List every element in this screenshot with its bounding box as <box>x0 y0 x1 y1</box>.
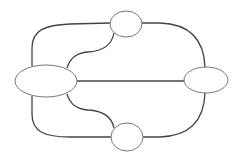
edge-left-top-inner <box>67 33 114 68</box>
edge-top-right <box>142 23 205 67</box>
edge-bottom-right <box>143 93 205 137</box>
node-left <box>15 65 77 97</box>
node-right <box>184 67 228 93</box>
edge-left-bottom-inner <box>67 94 114 128</box>
node-top <box>110 11 142 37</box>
node-bottom <box>111 123 143 151</box>
graph-diagram <box>0 0 239 159</box>
